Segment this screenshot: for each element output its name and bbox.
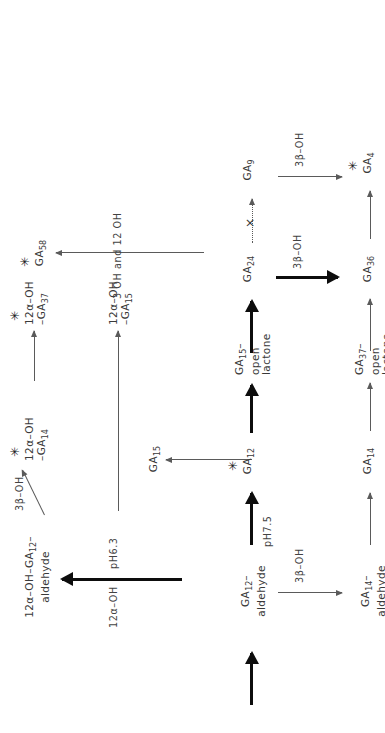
star-marker-ga12: ✳	[228, 461, 238, 471]
arrow-ga14-aldehyde-to-ga14	[370, 493, 371, 545]
blocked-reaction-x-icon: ×	[244, 218, 256, 228]
node-label-line1: GA37–	[353, 343, 365, 375]
node-ga14-aldehyde: GA14– aldehyde	[360, 553, 385, 629]
node-label: GA	[241, 266, 253, 282]
node-label: GA	[241, 458, 253, 474]
pathway-stage: 12α–OH–GA12– aldehyde 3β–OH ✳ 12α–OH –GA…	[0, 0, 385, 733]
edge-label-3-oh-and-12-oh: 3 OH and 12 OH	[112, 213, 123, 300]
node-label-line1: GA12–	[239, 575, 251, 607]
arrowhead-icon	[55, 250, 62, 256]
arrowhead-icon	[249, 198, 255, 205]
node-ga24: GA24	[242, 243, 258, 295]
edge-label-12a-oh: 12α–OH	[108, 586, 119, 628]
arrowhead-icon	[245, 491, 259, 504]
node-label-line3: lactone	[380, 333, 385, 375]
arrow-ga12-to-ga15-open-lactone	[250, 385, 253, 433]
node-label-line2: –GA14	[35, 429, 47, 461]
arrowhead-icon	[367, 492, 373, 499]
node-ga9: GA9	[242, 147, 258, 193]
node-label-line1: 12α–OH	[23, 417, 35, 461]
arrow-12a-oh-ga14-to-12a-oh-ga37	[34, 331, 35, 381]
diagram-canvas: 12α–OH–GA12– aldehyde 3β–OH ✳ 12α–OH –GA…	[0, 0, 385, 733]
arrow-ga12-aldehyde-to-ga12	[250, 493, 253, 545]
star-marker-ga58: ✳	[20, 257, 30, 267]
star-marker-ga4: ✳	[348, 161, 358, 171]
arrow-ga14-to-ga37-open-lactone	[370, 383, 371, 431]
arrow-ga37-open-lactone-to-ga36	[370, 299, 371, 351]
node-12a-oh-ga12-aldehyde: 12α–OH–GA12– aldehyde	[24, 517, 51, 637]
node-ga12: GA12	[242, 437, 258, 485]
arrowhead-icon	[367, 298, 373, 305]
node-label-line2: aldehyde	[255, 565, 267, 617]
node-label: GA	[361, 266, 373, 282]
node-label: GA	[361, 157, 373, 173]
node-label-line2: –GA37	[35, 293, 47, 325]
node-label-line1: 12α–OH–GA12–	[23, 536, 35, 618]
node-label: GA	[241, 164, 253, 180]
edge-label-ph63: pH6.3	[108, 537, 119, 569]
star-marker-12a-oh-ga37: ✳	[10, 311, 20, 321]
node-label-line1: GA15–	[233, 343, 245, 375]
arrowhead-icon	[367, 382, 373, 389]
arrow-ga15-open-lactone-to-ga15	[166, 459, 252, 460]
arrowhead-icon	[336, 174, 343, 180]
node-label-line2: open	[369, 347, 381, 375]
node-ga58: GA58	[34, 225, 50, 281]
node-label-line2: aldehyde	[39, 551, 51, 603]
star-marker-12a-oh-ga14: ✳	[10, 447, 20, 457]
node-ga4: GA4	[362, 141, 378, 185]
arrowhead-icon	[327, 270, 340, 284]
arrow-ga15-open-lactone-to-ga24	[250, 301, 253, 353]
node-label-line1: 12α–OH	[23, 281, 35, 325]
edge-label-3b-oh-a: 3β–OH	[14, 476, 25, 511]
node-12a-oh-ga14: 12α–OH –GA14	[24, 385, 51, 461]
arrow-ga9-to-ga58	[56, 252, 204, 253]
edge-label-3b-oh-b: 3β–OH	[294, 548, 305, 583]
arrowhead-icon	[31, 330, 37, 337]
arrow-12a-oh-ph63	[62, 578, 182, 581]
arrow-ga9-to-ga4	[278, 176, 342, 177]
edge-label-3b-oh-d: 3β–OH	[294, 132, 305, 167]
arrow-ga24-to-ga36	[276, 276, 338, 279]
arrow-ga36-to-ga4	[370, 191, 371, 239]
node-ga36: GA36	[362, 243, 378, 295]
node-label: GA	[147, 456, 159, 472]
arrowhead-icon	[245, 383, 259, 396]
arrowhead-icon	[115, 330, 121, 337]
edge-label-ph75: pH7.5	[262, 515, 273, 547]
node-label: GA	[361, 458, 373, 474]
arrowhead-icon	[367, 190, 373, 197]
arrow-12a-oh-ga12-aldehyde-to-12a-oh-ga15	[118, 331, 119, 511]
edge-label-3b-oh-c: 3β–OH	[292, 234, 303, 269]
arrowhead-icon	[245, 651, 259, 664]
arrowhead-icon	[165, 457, 172, 463]
arrowhead-icon	[60, 572, 73, 586]
node-label-line1: GA14–	[359, 575, 371, 607]
arrowhead-icon	[336, 590, 343, 596]
arrow-3b-oh-to-12a-oh-ga14	[22, 470, 45, 515]
arrow-ga12-aldehyde-to-ga14-aldehyde	[278, 592, 342, 593]
node-label: GA	[33, 250, 45, 266]
arrow-inbound-to-ga12-aldehyde	[250, 653, 253, 705]
node-ga14: GA14	[362, 437, 378, 485]
node-ga12-aldehyde: GA12– aldehyde	[240, 553, 267, 629]
node-label-line3: lactone	[260, 333, 272, 375]
arrowhead-icon	[245, 299, 259, 312]
node-ga15: GA15	[148, 433, 164, 485]
node-label-line2: aldehyde	[375, 565, 385, 617]
